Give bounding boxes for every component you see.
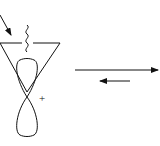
orbital-diagram bbox=[0, 0, 160, 146]
triangle-ring bbox=[0, 43, 60, 92]
positive-charge-label: + bbox=[39, 93, 45, 104]
wavy-bond bbox=[26, 25, 28, 52]
p-orbital bbox=[17, 59, 38, 137]
incoming-arrow bbox=[0, 15, 11, 35]
